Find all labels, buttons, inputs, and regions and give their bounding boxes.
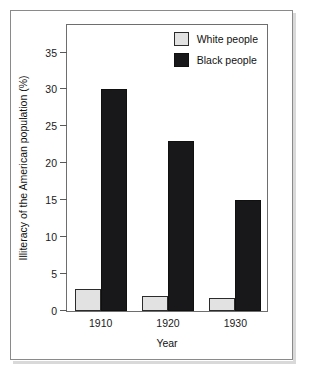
bar-black-1930	[235, 200, 261, 311]
y-tick-label: 35	[45, 47, 57, 58]
bar-black-1910	[101, 89, 127, 311]
x-tick-label: 1920	[156, 318, 179, 329]
y-tick-label: 15	[45, 195, 57, 206]
x-tick-label: 1930	[224, 318, 247, 329]
bar-white-1920	[142, 296, 168, 311]
y-tick: 5	[60, 273, 67, 274]
frame-shadow-right	[293, 13, 296, 363]
y-tick-label: 10	[45, 232, 57, 243]
y-axis-title: Illiteracy of the American population (%…	[16, 24, 30, 312]
y-tick: 35	[60, 52, 67, 53]
legend-item-black: Black people	[174, 53, 258, 67]
white-swatch-icon	[174, 32, 189, 46]
x-axis-title: Year	[66, 338, 268, 349]
bar-white-1910	[75, 289, 101, 311]
y-tick: 20	[60, 162, 67, 163]
y-tick: 15	[60, 199, 67, 200]
legend-label-white: White people	[197, 34, 258, 45]
y-tick-label: 5	[51, 269, 57, 280]
y-tick: 30	[60, 88, 67, 89]
bar-white-1930	[209, 298, 235, 311]
chart-figure: Illiteracy of the American population (%…	[0, 0, 309, 386]
legend-item-white: White people	[174, 32, 258, 46]
y-tick-label: 20	[45, 158, 57, 169]
y-tick-label: 0	[51, 306, 57, 317]
y-tick: 25	[60, 125, 67, 126]
chart-legend: White people Black people	[174, 32, 258, 67]
plot-inner: 05101520253035 191019201930 White people…	[67, 25, 267, 311]
frame-shadow-bottom	[13, 361, 296, 364]
x-tick-label: 1910	[89, 318, 112, 329]
y-tick: 10	[60, 236, 67, 237]
y-tick-label: 25	[45, 121, 57, 132]
legend-label-black: Black people	[197, 55, 257, 66]
y-tick-label: 30	[45, 84, 57, 95]
plot-area: 05101520253035 191019201930 White people…	[66, 24, 268, 312]
bar-black-1920	[168, 141, 194, 311]
y-tick: 0	[60, 310, 67, 311]
black-swatch-icon	[174, 53, 189, 67]
